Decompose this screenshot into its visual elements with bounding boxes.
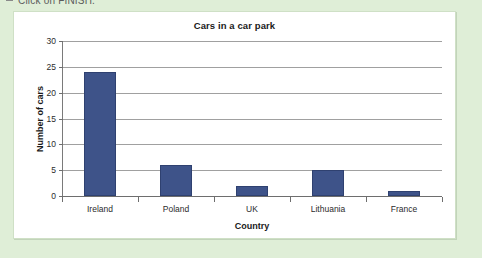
bar-cell (62, 41, 138, 196)
bar-cell (366, 41, 442, 196)
bar-lithuania[interactable] (312, 170, 345, 196)
chart-title: Cars in a car park (14, 20, 455, 31)
bar-cell (290, 41, 366, 196)
x-axis-label: UK (214, 204, 290, 214)
x-axis-title: Country (62, 221, 442, 231)
instruction-line: Click on FINISH. (0, 0, 95, 6)
x-axis-ticks (62, 197, 442, 202)
x-axis-tick (62, 197, 63, 202)
y-axis-title: Number of cars (34, 41, 46, 196)
y-axis-tick-label: 10 (47, 139, 56, 149)
chart-panel: Cars in a car park Number of cars 051015… (13, 11, 456, 239)
x-axis-tick (366, 197, 367, 202)
x-axis-tick (138, 197, 139, 202)
y-axis-tick-label: 20 (47, 88, 56, 98)
bar-cell (138, 41, 214, 196)
x-axis-tick (290, 197, 291, 202)
x-axis-tick (214, 197, 215, 202)
x-axis-label: Lithuania (290, 204, 366, 214)
y-axis-tick-label: 30 (47, 36, 56, 46)
y-axis-tick-label: 25 (47, 62, 56, 72)
y-axis-tick-label: 0 (51, 191, 56, 201)
y-axis-tick-label: 5 (51, 165, 56, 175)
bar-uk[interactable] (236, 186, 269, 196)
bar-poland[interactable] (160, 165, 193, 196)
bullet-icon (6, 0, 13, 1)
plot-area: 051015202530 (62, 41, 442, 196)
instruction-text: Click on FINISH. (18, 0, 95, 6)
bar-series (62, 41, 442, 196)
x-axis-labels: IrelandPolandUKLithuaniaFrance (62, 204, 442, 214)
x-axis-tick (442, 197, 443, 202)
bar-ireland[interactable] (84, 72, 117, 196)
screenshot-root: Click on FINISH. Cars in a car park Numb… (0, 0, 482, 258)
x-axis-label: France (366, 204, 442, 214)
x-axis-label: Poland (138, 204, 214, 214)
y-axis-tick-label: 15 (47, 114, 56, 124)
x-axis-label: Ireland (62, 204, 138, 214)
bar-cell (214, 41, 290, 196)
y-axis-title-text: Number of cars (35, 85, 45, 151)
